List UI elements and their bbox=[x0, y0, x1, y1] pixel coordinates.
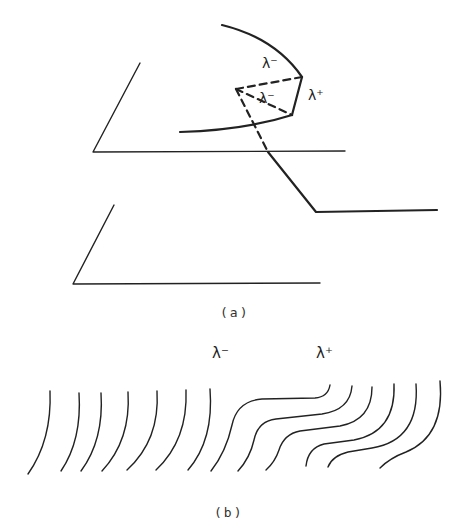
lower-arc bbox=[180, 115, 292, 132]
wave-arc-3 bbox=[81, 393, 101, 471]
caption-a: (a) bbox=[220, 305, 249, 320]
figure-canvas: λ⁻ λ⁻ λ⁺ (a) λ⁻ λ⁺ (b) bbox=[0, 0, 463, 529]
wave-arc-4 bbox=[102, 392, 128, 471]
wave-s-3 bbox=[266, 387, 372, 470]
lambda-plus-edge bbox=[292, 77, 302, 115]
wave-arc-1 bbox=[28, 391, 50, 474]
wave-arc-2 bbox=[61, 393, 79, 471]
wave-arc-7 bbox=[188, 389, 211, 470]
panel-b: λ⁻ λ⁺ (b) bbox=[28, 344, 441, 520]
label-lambda-minus-inner: λ⁻ bbox=[259, 90, 275, 106]
panel-a: λ⁻ λ⁻ λ⁺ (a) bbox=[73, 25, 437, 320]
wave-s-6 bbox=[380, 381, 441, 468]
wave-s-1 bbox=[211, 385, 330, 471]
label-lambda-plus: λ⁺ bbox=[316, 344, 333, 362]
dashed-edge-apex bbox=[236, 77, 302, 89]
upper-plane-outline bbox=[93, 63, 345, 152]
solid-continuation bbox=[268, 152, 437, 212]
wave-arc-5 bbox=[127, 391, 157, 470]
wave-arc-6 bbox=[156, 390, 186, 470]
label-lambda-plus: λ⁺ bbox=[308, 87, 324, 103]
label-lambda-minus-upper: λ⁻ bbox=[262, 55, 278, 71]
label-lambda-minus: λ⁻ bbox=[212, 344, 229, 362]
caption-b: (b) bbox=[214, 505, 243, 520]
lower-plane-outline bbox=[73, 205, 320, 284]
